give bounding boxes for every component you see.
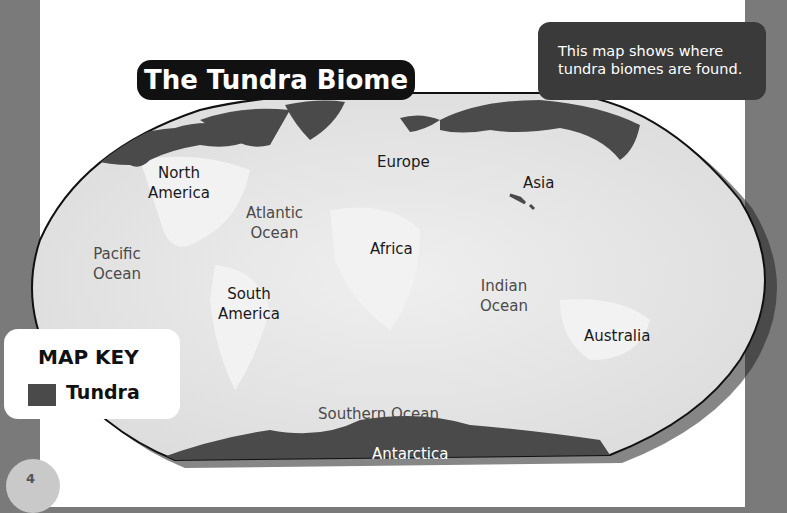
page-title: The Tundra Biome [137, 60, 415, 100]
map-key-label-tundra: Tundra [66, 381, 140, 403]
info-line-1: This map shows where [558, 42, 766, 60]
label-indian-ocean: Indian Ocean [480, 276, 528, 316]
info-callout: This map shows where tundra biomes are f… [538, 22, 766, 100]
label-north-america: North America [148, 163, 210, 203]
label-europe: Europe [377, 152, 430, 172]
map-key-title: MAP KEY [38, 345, 139, 369]
label-asia: Asia [523, 173, 554, 193]
label-africa: Africa [370, 239, 413, 259]
label-south-america: South America [218, 284, 280, 324]
label-pacific-ocean: Pacific Ocean [93, 244, 141, 284]
label-southern-ocean: Southern Ocean [318, 404, 439, 424]
tundra-swatch-icon [28, 384, 56, 406]
label-atlantic-ocean: Atlantic Ocean [246, 203, 303, 243]
page-number-globe-icon: 4 [6, 459, 60, 513]
label-australia: Australia [584, 326, 650, 346]
info-line-2: tundra biomes are found. [558, 60, 766, 78]
label-antarctica: Antarctica [372, 444, 448, 464]
map-key: MAP KEY Tundra [4, 329, 180, 419]
page-number: 4 [26, 471, 35, 486]
